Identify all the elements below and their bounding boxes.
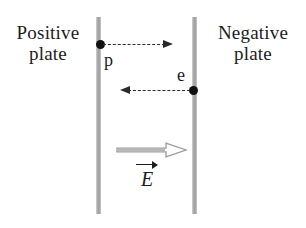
electric-field-symbol: E [141,168,153,190]
electric-field-arrow-icon [116,141,188,159]
proton-label: p [104,51,113,69]
proton-arrow-head-icon [163,40,173,48]
electric-field-plates-figure: Positive plate Negative plate p e E [0,0,306,228]
positive-plate-label: Positive plate [2,22,94,65]
electron-trajectory-dashed-line [128,90,190,91]
electron-label: e [177,66,185,84]
negative-plate-label-line1: Negative [218,22,288,43]
negative-plate-label: Negative plate [204,22,302,65]
proton-trajectory-dashed-line [103,44,165,45]
positive-plate-label-line2: plate [2,43,94,64]
negative-plate-label-line2: plate [204,43,302,64]
positive-plate-label-line1: Positive [17,22,80,43]
electric-field-label: E [130,159,164,190]
electron-arrow-head-icon [120,86,130,94]
electron-dot [189,86,198,95]
negative-plate [192,17,197,214]
vector-arrow-overbar-icon [136,159,158,169]
